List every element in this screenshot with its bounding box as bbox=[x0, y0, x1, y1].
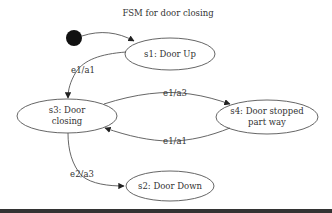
edge-s1-to-s3 bbox=[68, 52, 126, 98]
edge-start-to-s1 bbox=[82, 33, 134, 41]
state-s2: s2: Door Down bbox=[126, 171, 214, 201]
edge-s1-to-s3-label: e1/a1 bbox=[71, 65, 95, 75]
diagram-title: FSM for door closing bbox=[122, 8, 214, 18]
state-s3-label-line2: closing bbox=[52, 116, 83, 126]
state-s3: s3: Door closing bbox=[17, 99, 117, 133]
state-s4: s4: Door stopped part way bbox=[216, 100, 318, 134]
edge-s3-to-s2-label: e2/a3 bbox=[70, 169, 94, 179]
state-s2-label: s2: Door Down bbox=[138, 181, 202, 191]
state-s1: s1: Door Up bbox=[125, 38, 215, 70]
state-s3-label-line1: s3: Door bbox=[49, 105, 86, 115]
fsm-diagram: FSM for door closing s1: Door Up e1/a1 s… bbox=[0, 0, 332, 213]
edge-s4-to-s3-label: e1/a1 bbox=[163, 136, 187, 146]
edge-s3-to-s4-label: e1/a3 bbox=[163, 88, 187, 98]
state-s4-label-line1: s4: Door stopped bbox=[230, 106, 304, 116]
start-state-icon bbox=[66, 30, 82, 46]
bottom-border-bar bbox=[0, 209, 332, 213]
state-s4-label-line2: part way bbox=[248, 117, 286, 127]
state-s1-label: s1: Door Up bbox=[144, 49, 196, 59]
